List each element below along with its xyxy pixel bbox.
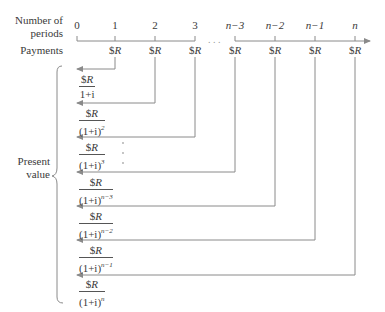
pv-denominator: (1+i)2	[79, 121, 105, 138]
pv-denominator: (1+i)3	[79, 155, 105, 172]
pv-numerator: $R	[79, 210, 113, 224]
label-present: Present	[18, 155, 50, 167]
vertical-ellipsis	[122, 142, 124, 164]
payment-n: $R	[349, 44, 361, 56]
axis-ellipsis: . . .	[208, 34, 221, 46]
pv-numerator: $R	[79, 244, 113, 258]
pv-denominator: (1+i)n	[79, 292, 105, 309]
tick-n-minus-2: n−2	[266, 19, 284, 31]
label-number-of: Number of	[15, 14, 63, 26]
payment-3: $R	[189, 44, 201, 56]
label-value: value	[26, 168, 50, 180]
timeline-axis	[77, 36, 370, 41]
discount-arrows	[77, 57, 355, 275]
tick-0: 0	[74, 19, 80, 31]
payment-n-minus-3: $R	[229, 44, 241, 56]
present-value-n-minus-3: $R (1+i)n−3	[79, 176, 113, 207]
pv-denominator: (1+i)n−1	[79, 258, 113, 275]
payment-2: $R	[149, 44, 161, 56]
brace	[52, 66, 63, 303]
pv-numerator: $R	[79, 107, 105, 121]
tick-n: n	[352, 19, 358, 31]
tick-1: 1	[112, 19, 118, 31]
pv-numerator: $R	[79, 176, 113, 190]
tick-n-minus-3: n−3	[226, 19, 244, 31]
payment-n-minus-2: $R	[269, 44, 281, 56]
pv-denominator: (1+i)n−3	[79, 190, 113, 207]
present-value-2: $R (1+i)2	[79, 107, 105, 138]
present-value-3: $R (1+i)3	[79, 141, 105, 172]
label-periods: periods	[31, 27, 63, 39]
label-payments: Payments	[20, 44, 63, 56]
present-value-n-minus-1: $R (1+i)n−1	[79, 244, 113, 275]
pv-numerator: $R	[79, 73, 95, 87]
tick-3: 3	[192, 19, 198, 31]
present-value-n: $R (1+i)n	[79, 278, 105, 309]
pv-denominator: (1+i)n−2	[79, 224, 113, 241]
present-value-n-minus-2: $R (1+i)n−2	[79, 210, 113, 241]
tick-2: 2	[152, 19, 158, 31]
payment-n-minus-1: $R	[309, 44, 321, 56]
present-value-1: $R 1+i	[79, 73, 95, 101]
tick-n-minus-1: n−1	[306, 19, 324, 31]
pv-numerator: $R	[79, 141, 105, 155]
payment-1: $R	[109, 44, 121, 56]
pv-denominator: 1+i	[79, 87, 95, 101]
pv-numerator: $R	[79, 278, 105, 292]
